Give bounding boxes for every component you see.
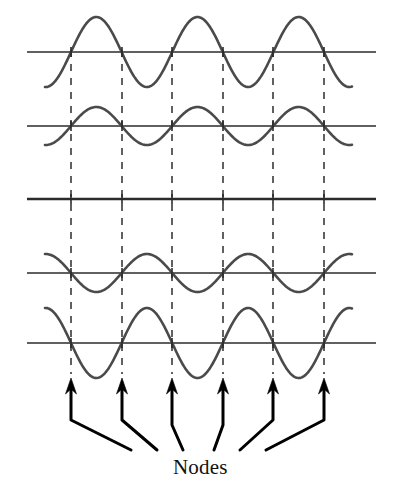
standing-wave-diagram [0,0,394,488]
nodes-label: Nodes [173,455,228,480]
node-arrow-leader-4 [214,386,223,450]
node-arrow-leader-3 [172,386,183,450]
standing-wave-figure: Nodes [0,0,394,488]
node-arrow-leader-5 [240,386,273,450]
node-arrow-leader-6 [266,386,324,450]
node-arrow-leader-2 [122,386,157,450]
node-dashed-lines-layer [71,47,324,374]
node-arrows-layer [66,378,330,450]
